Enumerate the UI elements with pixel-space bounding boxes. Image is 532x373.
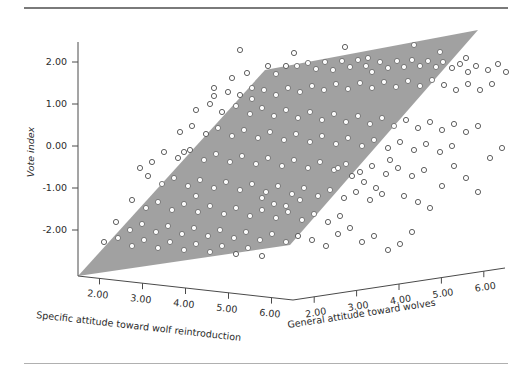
scatter-point — [113, 219, 118, 224]
scatter-point — [465, 81, 470, 86]
scatter-point — [395, 165, 400, 170]
scatter-point — [267, 129, 272, 134]
scatter-point — [281, 137, 286, 142]
scatter-point — [285, 209, 290, 214]
scatter-point — [279, 163, 284, 168]
scatter-point — [393, 84, 398, 89]
scatter-point — [271, 201, 276, 206]
scatter-point — [219, 243, 224, 248]
scatter-point — [259, 105, 264, 110]
scatter-point — [233, 205, 238, 210]
scatter-point — [247, 213, 252, 218]
scatter-point — [305, 60, 310, 65]
scatter-point — [463, 129, 468, 134]
scatter-point — [369, 163, 374, 168]
scatter-point — [195, 209, 200, 214]
z-axis-ticks — [72, 62, 78, 230]
scatter-point — [345, 86, 350, 91]
scatter-point — [273, 92, 278, 97]
scatter-point — [409, 229, 414, 234]
scatter-point — [245, 245, 250, 250]
scatter-point — [379, 115, 384, 120]
scatter-point — [273, 71, 278, 76]
scatter-point — [179, 231, 184, 236]
axis-tick-label: 5.00 — [432, 286, 455, 300]
scatter-point — [451, 121, 456, 126]
scatter-point — [211, 85, 216, 90]
scatter-point — [263, 189, 268, 194]
scatter-point — [227, 159, 232, 164]
scatter-point — [433, 64, 438, 69]
scatter-point — [369, 85, 374, 90]
scatter-point — [453, 87, 458, 92]
scatter-point — [283, 239, 288, 244]
scatter-point — [363, 63, 368, 68]
scatter-point — [187, 147, 192, 152]
scatter-point — [423, 141, 428, 146]
scatter-point — [495, 61, 500, 66]
scatter-point — [355, 57, 360, 62]
scatter-point — [139, 221, 144, 226]
scatter-point — [421, 167, 426, 172]
scatter-point — [397, 241, 402, 246]
scatter-point — [427, 119, 432, 124]
scatter-point — [247, 111, 252, 116]
scatter-point — [315, 193, 320, 198]
scatter-point — [322, 59, 327, 64]
plot-svg: 2.001.000.00-1.00-2.00 Vote index 2.003.… — [0, 0, 532, 373]
scatter-point — [271, 113, 276, 118]
scatter-point — [189, 123, 194, 128]
scatter-point — [301, 185, 306, 190]
scatter-point — [449, 65, 454, 70]
scatter-point — [377, 59, 382, 64]
scatter-point — [229, 75, 234, 80]
scatter-point — [327, 187, 332, 192]
scatter-point — [249, 85, 254, 90]
scatter-point — [237, 187, 242, 192]
axis-tick-label: 5.00 — [216, 302, 238, 315]
scatter-point — [387, 157, 392, 162]
scatter-point — [463, 55, 468, 60]
scatter-point — [339, 58, 344, 63]
scatter-point — [203, 131, 208, 136]
scatter-point — [335, 165, 340, 170]
scatter-point — [249, 96, 254, 101]
scatter-point — [475, 189, 480, 194]
scatter-point — [401, 64, 406, 69]
axis-tick-label: 2.00 — [87, 287, 109, 300]
scatter-point — [359, 143, 364, 148]
z-axis-tick-labels: 2.001.000.00-1.00-2.00 — [42, 56, 67, 235]
scatter-point — [343, 161, 348, 166]
scatter-point — [475, 123, 480, 128]
scatter-point — [451, 163, 456, 168]
scatter-point — [349, 173, 354, 178]
scatter-point — [394, 58, 399, 63]
scatter-point — [291, 157, 296, 162]
scatter-point — [169, 207, 174, 212]
scatter-point — [397, 139, 402, 144]
scatter-point — [283, 63, 288, 68]
scatter-point — [115, 235, 120, 240]
scatter-point — [411, 147, 416, 152]
scatter-point — [449, 143, 454, 148]
scatter-point — [307, 109, 312, 114]
scatter-point — [371, 233, 376, 238]
x-axis-tick-labels: 2.003.004.005.006.00 — [87, 287, 281, 319]
scatter-point — [417, 83, 422, 88]
scatter-point — [343, 119, 348, 124]
scatter-point — [299, 217, 304, 222]
scatter-point — [265, 63, 270, 68]
scatter-point — [211, 93, 216, 98]
scatter-point — [385, 65, 390, 70]
scatter-point — [440, 59, 445, 64]
scatter-point — [237, 47, 242, 52]
scatter-point — [439, 183, 444, 188]
scatter-point — [153, 229, 158, 234]
scatter-point — [161, 149, 166, 154]
scatter-point — [333, 81, 338, 86]
scatter-point — [165, 223, 170, 228]
scatter-point — [175, 155, 180, 160]
axis-tick-label: 4.00 — [173, 297, 195, 310]
scatter-point — [223, 179, 228, 184]
scatter-point — [213, 151, 218, 156]
